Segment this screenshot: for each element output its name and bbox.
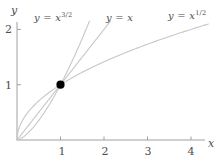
x-tick-label-2: 2: [102, 146, 109, 157]
y-tick-label-1: 1: [0, 80, 12, 91]
plot-canvas: [0, 0, 216, 163]
intersection-point-dot: [56, 81, 64, 89]
y-tick-label-2: 2: [0, 24, 12, 35]
tick-marks-group: [17, 29, 191, 140]
curve-label-x-three-halves: y = x3/2: [34, 13, 72, 23]
curve-label-exponent-2: 1/2: [195, 9, 206, 17]
x-tick-label-3: 3: [145, 146, 152, 157]
axes-group: [17, 22, 205, 140]
curves-group: [17, 21, 208, 140]
curve-label-base-1: y = x: [106, 12, 133, 23]
curve-series-0: [17, 21, 89, 140]
curve-label-x: y = x: [106, 13, 133, 23]
curve-label-exponent-0: 3/2: [61, 11, 72, 19]
curve-series-1: [17, 21, 111, 140]
x-tick-label-4: 4: [188, 146, 195, 157]
curve-label-base-0: y = x: [34, 12, 61, 23]
curve-series-2: [17, 24, 208, 140]
power-functions-figure: y x 2 1 1 2 3 4 y = x3/2 y = x y = x1/2: [0, 0, 216, 163]
curve-label-base-2: y = x: [168, 10, 195, 21]
x-tick-label-1: 1: [59, 146, 66, 157]
y-axis-label: y: [11, 5, 17, 16]
curve-label-x-one-half: y = x1/2: [168, 11, 206, 21]
x-axis-label: x: [208, 138, 214, 149]
